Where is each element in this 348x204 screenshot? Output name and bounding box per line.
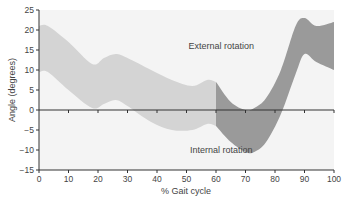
y-tick-label: −5 (24, 125, 34, 135)
x-tick-label: 30 (123, 174, 133, 184)
x-tick-label: 20 (93, 174, 103, 184)
y-tick-label: 25 (25, 5, 35, 15)
y-axis-label: Angle (degrees) (7, 58, 17, 122)
x-tick-label: 50 (182, 174, 192, 184)
gait-rotation-chart: 2520151050−5−10−15 010203040506070809010… (0, 0, 348, 204)
annotation-external-rotation: External rotation (188, 41, 254, 51)
y-tick-label: −15 (20, 165, 35, 175)
x-axis-label: % Gait cycle (161, 186, 211, 196)
x-tick-label: 90 (300, 174, 310, 184)
y-tick-label: −10 (20, 145, 35, 155)
x-tick-label: 70 (241, 174, 251, 184)
x-tick-label: 10 (64, 174, 74, 184)
y-tick-label: 5 (29, 85, 34, 95)
y-tick-label: 10 (25, 65, 35, 75)
x-tick-label: 100 (327, 174, 341, 184)
x-tick-label: 40 (152, 174, 162, 184)
y-tick-label: 15 (25, 45, 35, 55)
x-tick-label: 0 (37, 174, 42, 184)
y-axis-ticks: 2520151050−5−10−15 (20, 5, 39, 175)
x-axis-ticks: 0102030405060708090100 (37, 170, 342, 184)
y-tick-label: 0 (29, 105, 34, 115)
annotation-internal-rotation: Internal rotation (190, 145, 253, 155)
y-tick-label: 20 (25, 25, 35, 35)
x-tick-label: 80 (270, 174, 280, 184)
x-tick-label: 60 (211, 174, 221, 184)
